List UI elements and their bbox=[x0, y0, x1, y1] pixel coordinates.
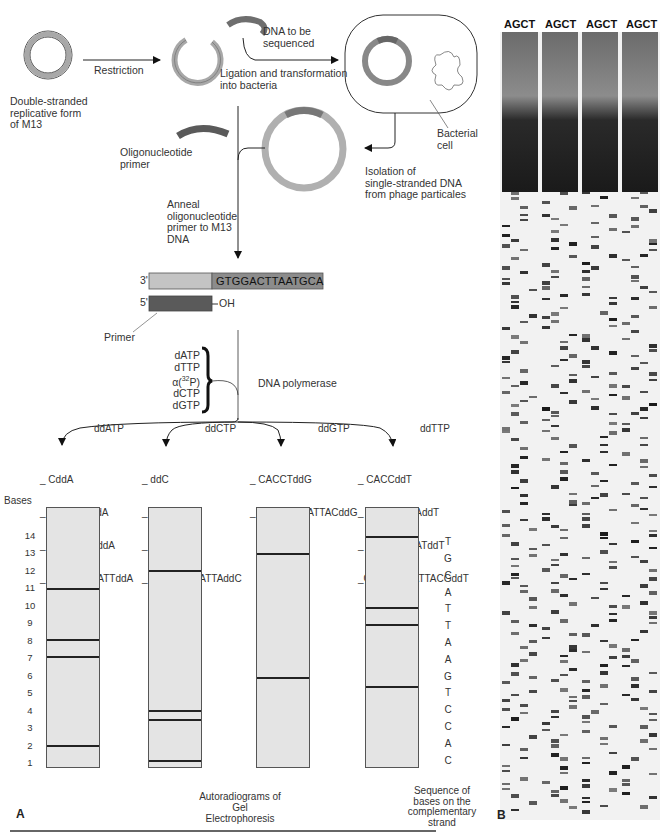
sequence-base: C bbox=[442, 755, 454, 766]
base-number: 14 bbox=[20, 530, 40, 541]
double-stranded-m13-label: Double-stranded replicative form of M13 bbox=[10, 96, 88, 131]
sequence-base: C bbox=[442, 721, 454, 732]
complementary-strand-caption: Sequence of bases on the complementary s… bbox=[404, 786, 480, 828]
hydroxyl-label: OH bbox=[219, 298, 235, 310]
five-prime-end-label: 5' bbox=[140, 297, 148, 309]
sequence-base: C bbox=[442, 570, 454, 581]
nucleotide-list: dATP dTTP α(32P) dCTP dGTP bbox=[150, 350, 200, 411]
sequence-base: A bbox=[442, 587, 454, 598]
base-number: 2 bbox=[20, 740, 40, 751]
gel-band bbox=[149, 760, 201, 762]
gel-band bbox=[366, 686, 418, 688]
panel-a-label: A bbox=[16, 807, 25, 821]
bases-axis-label: Bases bbox=[4, 495, 32, 506]
base-number: 5 bbox=[20, 687, 40, 698]
gel-band bbox=[366, 607, 418, 609]
lane-group-header: AGCT bbox=[504, 18, 535, 30]
three-prime-end-label: 3' bbox=[140, 275, 148, 287]
sequence-base: C bbox=[442, 704, 454, 715]
gel-band bbox=[149, 570, 201, 572]
lane-group-header: AGCT bbox=[545, 18, 576, 30]
primer-label: Primer bbox=[104, 332, 135, 344]
gel-lane-t bbox=[365, 507, 419, 768]
gel-lane-group bbox=[582, 32, 618, 820]
gel-lane-group bbox=[542, 32, 578, 820]
gel-band bbox=[47, 745, 99, 747]
gel-band bbox=[257, 553, 309, 555]
sequence-base: G bbox=[442, 671, 454, 682]
gel-lane-g bbox=[256, 507, 310, 768]
lane-group-header: AGCT bbox=[586, 18, 617, 30]
ddttp-label: ddTTP bbox=[420, 423, 450, 434]
gel-band bbox=[47, 588, 99, 590]
base-number: 13 bbox=[20, 547, 40, 558]
gel-band bbox=[366, 624, 418, 626]
restriction-label: Restriction bbox=[94, 65, 144, 77]
panel-b-label: B bbox=[497, 808, 506, 822]
gel-band bbox=[47, 639, 99, 641]
ddgtp-label: ddGTP bbox=[318, 423, 350, 434]
base-number: 4 bbox=[20, 705, 40, 716]
sequence-base: A bbox=[442, 738, 454, 749]
oligonucleotide-primer-label: Oligonucleotide primer bbox=[120, 147, 192, 170]
gel-lane-group bbox=[622, 32, 658, 820]
base-number: 7 bbox=[20, 652, 40, 663]
autoradiogram-caption: Autoradiograms of Gel Electrophoresis bbox=[190, 791, 290, 824]
bacterial-cell-label: Bacterial cell bbox=[437, 128, 478, 151]
ligation-transformation-label: Ligation and transformation into bacteri… bbox=[220, 68, 347, 91]
base-number: 1 bbox=[20, 757, 40, 768]
sequence-base: A bbox=[442, 654, 454, 665]
sequencing-gel-photo bbox=[500, 32, 660, 820]
anneal-label: Anneal oligonucleotide primer to M13 DNA bbox=[167, 199, 237, 245]
base-number: 10 bbox=[20, 600, 40, 611]
base-number: 3 bbox=[20, 722, 40, 733]
sequence-base: T bbox=[442, 603, 454, 614]
ddatp-label: ddATP bbox=[94, 423, 124, 434]
gel-band bbox=[366, 536, 418, 538]
gel-band bbox=[47, 656, 99, 658]
sequence-base: G bbox=[442, 553, 454, 564]
sequence-base: T bbox=[442, 620, 454, 631]
sequence-base: T bbox=[442, 687, 454, 698]
base-number: 8 bbox=[20, 635, 40, 646]
base-number: 11 bbox=[20, 582, 40, 593]
sequence-base: A bbox=[442, 637, 454, 648]
lane-group-header: AGCT bbox=[626, 18, 657, 30]
ddctp-label: ddCTP bbox=[205, 423, 236, 434]
dna-polymerase-label: DNA polymerase bbox=[258, 378, 337, 390]
gel-band bbox=[149, 719, 201, 721]
gel-band bbox=[149, 710, 201, 712]
dna-to-be-sequenced-label: DNA to be sequenced bbox=[263, 26, 314, 49]
base-number: 12 bbox=[20, 565, 40, 576]
gel-lane-group bbox=[502, 32, 538, 820]
base-number: 6 bbox=[20, 670, 40, 681]
template-sequence: GTGGACTTAATGCA bbox=[216, 275, 324, 287]
gel-lane-a bbox=[46, 507, 100, 768]
base-number: 9 bbox=[20, 617, 40, 628]
gel-band bbox=[257, 677, 309, 679]
sequence-base: T bbox=[442, 536, 454, 547]
gel-lane-c bbox=[148, 507, 202, 768]
isolation-label: Isolation of single-stranded DNA from ph… bbox=[365, 166, 466, 201]
